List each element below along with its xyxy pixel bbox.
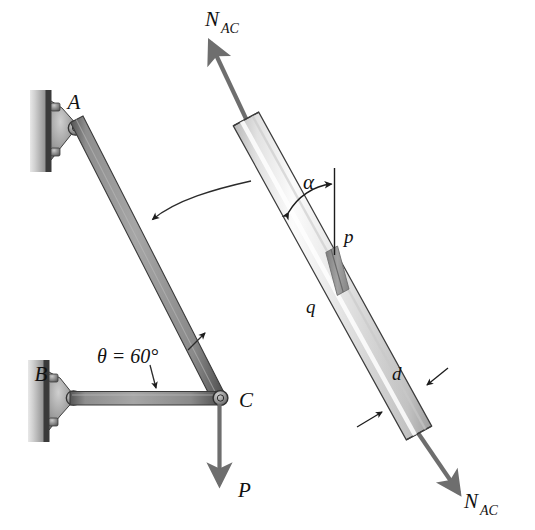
pin-joint-c: [213, 391, 228, 406]
force-arrow-top-nac: [210, 42, 249, 124]
bolt-head-b-top: [49, 374, 58, 382]
leader-diameter-d-upper: [427, 368, 448, 385]
label-joint-b: B: [35, 362, 48, 386]
bolt-head-b-bottom: [49, 418, 58, 426]
label-force-nac-bottom: N AC: [463, 489, 499, 518]
label-joint-a: A: [66, 90, 81, 114]
leader-theta-to-member-bc: [150, 365, 156, 388]
label-angle-alpha: α: [303, 170, 315, 194]
member-bc-body: [70, 392, 221, 406]
label-load-p: P: [237, 478, 251, 502]
label-force-nac-bottom-sub: AC: [479, 503, 499, 518]
member-bc: [70, 392, 221, 406]
bolt-head-a-bottom: [51, 148, 60, 156]
label-force-nac-top: N AC: [204, 7, 240, 36]
label-force-nac-bottom-main: N: [463, 489, 479, 513]
engineering-diagram-canvas: A B C P θ = 60° α p q d N AC N AC: [0, 0, 535, 530]
figure-root: A B C P θ = 60° α p q d N AC N AC: [0, 0, 535, 530]
label-plane-q: q: [306, 296, 316, 317]
label-force-nac-top-sub: AC: [220, 21, 240, 36]
label-diameter-d: d: [392, 363, 402, 384]
leader-curve-bar-to-member: [153, 181, 252, 220]
pin-joint-c-group: [213, 391, 228, 406]
bolt-head-a-top: [51, 103, 60, 111]
label-force-nac-top-main: N: [204, 7, 220, 31]
label-plane-p: p: [342, 226, 354, 247]
label-joint-c: C: [239, 388, 254, 412]
label-angle-theta: θ = 60°: [97, 345, 158, 367]
leader-diameter-d-lower: [357, 412, 382, 427]
wall-strip-a: [30, 90, 47, 172]
free-body-bar-group: [210, 42, 459, 493]
bar-highlight-streak: [242, 122, 415, 436]
force-arrow-bottom-nac: [416, 430, 459, 493]
